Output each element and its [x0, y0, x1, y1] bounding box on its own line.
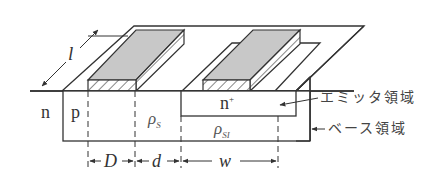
dimension-D-label: D — [104, 152, 117, 170]
rho-s-symbol: ρ — [148, 109, 156, 128]
emitter-n-plus-box — [181, 91, 296, 116]
transistor-structure-diagram: l n p ρS n+ ρSI エミッタ領域 ベース領域 D d w — [0, 0, 448, 175]
n-region-label: n — [41, 103, 50, 121]
rho-si-symbol: ρ — [214, 119, 222, 138]
rho-s-label: ρS — [148, 110, 161, 130]
n-plus-label: n+ — [220, 94, 234, 112]
right-electrode — [203, 30, 300, 91]
rho-s-subscript: S — [156, 120, 161, 130]
n-plus-superscript: + — [229, 94, 234, 104]
dimension-d-label: d — [152, 152, 161, 170]
left-electrode — [88, 30, 184, 91]
emitter-region-label: エミッタ領域 — [320, 90, 416, 104]
length-label: l — [68, 44, 73, 63]
rho-si-label: ρSI — [214, 120, 230, 140]
rho-si-subscript: SI — [222, 130, 230, 140]
diagram-drawing — [0, 0, 448, 175]
dimension-w-label: w — [219, 152, 231, 170]
n-plus-symbol: n — [220, 93, 229, 113]
p-region-label: p — [71, 103, 80, 121]
base-region-label: ベース領域 — [328, 121, 407, 135]
